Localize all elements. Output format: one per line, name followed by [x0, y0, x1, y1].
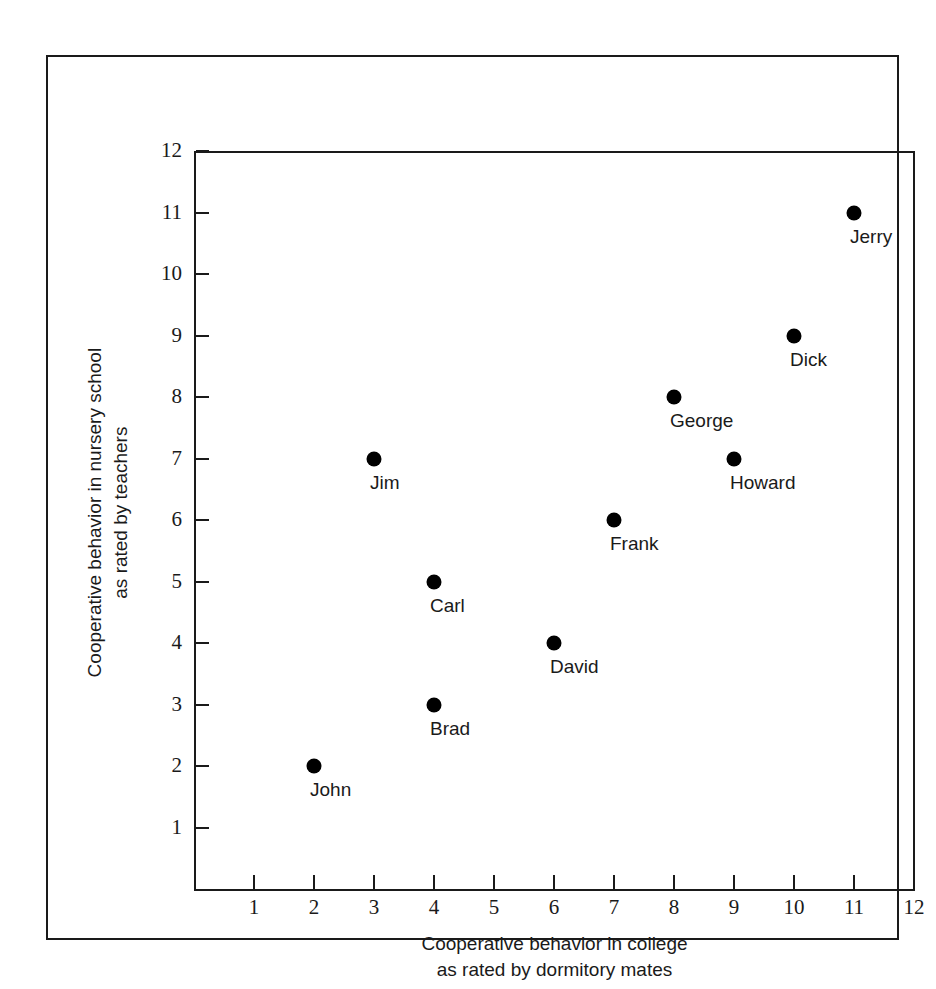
y-axis-tick-label: 1 [142, 817, 182, 838]
x-axis-tick-label: 4 [412, 897, 456, 918]
y-axis-tick-label: 11 [142, 202, 182, 223]
y-axis-tick-label: 4 [142, 632, 182, 653]
x-axis-title: Cooperative behavior in college as rated… [195, 931, 914, 982]
y-axis-tick [196, 642, 209, 644]
x-axis-tick [853, 875, 855, 889]
data-point-label: Carl [430, 596, 465, 615]
data-point-label: Brad [430, 719, 470, 738]
y-axis-tick-label: 8 [142, 386, 182, 407]
y-axis-tick [196, 519, 209, 521]
y-axis-title-line-2: as rated by teachers [108, 183, 134, 843]
y-axis-tick [196, 212, 209, 214]
data-point-label: Dick [790, 350, 827, 369]
x-axis-tick-label: 8 [652, 897, 696, 918]
figure-border: 123456789101112 123456789101112 JohnBrad… [46, 55, 899, 940]
data-point[interactable] [727, 451, 742, 466]
x-axis-tick [433, 875, 435, 889]
data-point[interactable] [667, 390, 682, 405]
x-axis-tick [553, 875, 555, 889]
y-axis-tick [196, 335, 209, 337]
x-axis-title-line-1: Cooperative behavior in college [195, 931, 914, 957]
x-axis-title-line-2: as rated by dormitory mates [195, 957, 914, 983]
data-point[interactable] [427, 697, 442, 712]
data-point[interactable] [787, 328, 802, 343]
x-axis-tick-label: 12 [892, 897, 936, 918]
y-axis-tick [196, 765, 209, 767]
x-axis-tick [613, 875, 615, 889]
data-point[interactable] [367, 451, 382, 466]
y-axis-tick-label: 12 [142, 140, 182, 161]
data-point-label: Jerry [850, 227, 892, 246]
x-axis-tick-label: 9 [712, 897, 756, 918]
y-axis-tick [196, 396, 209, 398]
y-axis-tick [196, 827, 209, 829]
y-axis-tick-label: 7 [142, 448, 182, 469]
x-axis-tick-label: 10 [772, 897, 816, 918]
x-axis-tick [253, 875, 255, 889]
x-axis-tick-label: 5 [472, 897, 516, 918]
x-axis-tick-label: 1 [232, 897, 276, 918]
x-axis-tick [793, 875, 795, 889]
x-axis-tick [673, 875, 675, 889]
data-point-label: Howard [730, 473, 795, 492]
y-axis-line [194, 151, 196, 891]
y-axis-tick-label: 10 [142, 263, 182, 284]
data-point-label: Frank [610, 534, 659, 553]
x-axis-tick [493, 875, 495, 889]
y-axis-tick [196, 273, 209, 275]
y-axis-title-line-1: Cooperative behavior in nursery school [82, 183, 108, 843]
data-point[interactable] [307, 759, 322, 774]
y-axis-tick-label: 9 [142, 325, 182, 346]
data-point[interactable] [607, 513, 622, 528]
x-axis-tick [373, 875, 375, 889]
y-axis-tick-label: 3 [142, 694, 182, 715]
y-axis-tick-label: 5 [142, 571, 182, 592]
y-axis-tick [196, 704, 209, 706]
x-axis-tick-label: 11 [832, 897, 876, 918]
y-axis-tick [196, 581, 209, 583]
x-axis-tick [733, 875, 735, 889]
x-axis-tick-label: 2 [292, 897, 336, 918]
x-axis-tick-label: 7 [592, 897, 636, 918]
data-point-label: David [550, 657, 599, 676]
data-point-label: Jim [370, 473, 400, 492]
y-axis-tick-label: 2 [142, 755, 182, 776]
y-axis-tick [196, 458, 209, 460]
data-point[interactable] [847, 205, 862, 220]
plot-frame-top [194, 151, 915, 153]
plot-frame-right [913, 151, 915, 891]
x-axis-line [194, 889, 915, 891]
y-axis-title: Cooperative behavior in nursery school a… [82, 183, 133, 843]
x-axis-tick [913, 875, 915, 889]
data-point[interactable] [547, 636, 562, 651]
data-point-label: George [670, 411, 733, 430]
y-axis-tick [196, 150, 209, 152]
x-axis-tick-label: 3 [352, 897, 396, 918]
x-axis-tick-label: 6 [532, 897, 576, 918]
y-axis-tick-label: 6 [142, 509, 182, 530]
data-point[interactable] [427, 574, 442, 589]
data-point-label: John [310, 780, 351, 799]
x-axis-tick [313, 875, 315, 889]
